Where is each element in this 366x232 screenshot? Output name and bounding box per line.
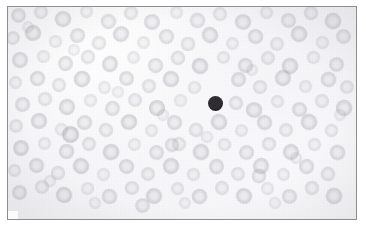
- erythrocyte: [95, 166, 110, 181]
- dark-stained-nucleated-cell: [208, 96, 223, 111]
- erythrocyte: [268, 35, 286, 53]
- erythrocyte: [234, 123, 248, 136]
- erythrocyte: [200, 130, 214, 144]
- erythrocyte: [26, 155, 47, 176]
- erythrocyte: [53, 9, 73, 29]
- erythrocyte: [100, 54, 121, 75]
- erythrocyte: [71, 68, 93, 91]
- erythrocyte: [103, 99, 121, 118]
- erythrocyte: [160, 155, 182, 177]
- erythrocyte: [187, 10, 207, 30]
- erythrocyte: [70, 155, 93, 178]
- erythrocyte: [26, 67, 47, 88]
- erythrocyte: [146, 56, 164, 74]
- erythrocyte: [144, 14, 160, 30]
- erythrocyte: [9, 182, 29, 202]
- erythrocyte: [296, 77, 314, 95]
- erythrocyte: [318, 164, 338, 184]
- erythrocyte: [259, 49, 278, 68]
- erythrocyte: [136, 35, 150, 49]
- erythrocyte: [96, 120, 116, 140]
- erythrocyte: [8, 74, 22, 89]
- erythrocyte: [225, 36, 240, 51]
- erythrocyte: [190, 141, 213, 164]
- erythrocyte: [78, 7, 94, 19]
- erythrocyte: [143, 122, 158, 138]
- screenshot-canvas: [0, 0, 366, 232]
- erythrocyte: [57, 55, 73, 72]
- erythrocyte: [170, 181, 185, 196]
- erythrocyte: [12, 94, 33, 115]
- erythrocyte: [8, 116, 26, 135]
- erythrocyte: [99, 12, 116, 29]
- erythrocyte: [306, 136, 323, 153]
- erythrocyte: [78, 47, 98, 67]
- erythrocyte: [189, 55, 211, 77]
- erythrocyte: [156, 26, 176, 46]
- erythrocyte: [35, 134, 53, 152]
- erythrocyte: [184, 165, 201, 182]
- erythrocyte: [141, 78, 157, 94]
- erythrocyte: [66, 24, 87, 45]
- erythrocyte: [251, 78, 269, 95]
- erythrocyte: [326, 141, 347, 162]
- erythrocyte: [233, 185, 255, 206]
- erythrocyte: [125, 90, 144, 109]
- erythrocyte: [79, 134, 98, 153]
- erythrocyte: [215, 49, 232, 66]
- erythrocyte: [236, 142, 256, 162]
- erythrocyte: [324, 186, 345, 207]
- erythrocyte: [303, 179, 320, 196]
- erythrocyte: [208, 111, 231, 134]
- erythrocyte: [207, 157, 225, 175]
- erythrocyte: [334, 27, 352, 45]
- erythrocyte: [234, 13, 252, 31]
- erythrocyte: [313, 91, 332, 110]
- erythrocyte: [199, 24, 222, 47]
- erythrocyte: [257, 7, 275, 21]
- erythrocyte: [279, 186, 300, 207]
- blood-smear-field: [8, 7, 356, 219]
- erythrocyte: [188, 185, 210, 207]
- erythrocyte: [215, 135, 233, 152]
- erythrocyte: [185, 78, 203, 95]
- erythrocyte: [48, 34, 62, 48]
- erythrocyte: [245, 26, 265, 46]
- erythrocyte: [302, 7, 320, 22]
- erythrocyte: [100, 141, 121, 162]
- erythrocyte: [305, 49, 321, 65]
- erythrocyte: [53, 184, 76, 207]
- erythrocyte: [125, 135, 143, 153]
- erythrocyte: [167, 7, 185, 21]
- erythrocyte: [147, 143, 165, 161]
- erythrocyte: [338, 78, 356, 96]
- erythrocyte: [168, 48, 188, 68]
- erythrocyte: [52, 78, 66, 93]
- erythrocyte: [228, 164, 247, 183]
- erythrocyte: [124, 181, 139, 196]
- corner-notch: [8, 211, 18, 219]
- erythrocyte: [43, 174, 56, 187]
- erythrocyte: [31, 7, 51, 22]
- erythrocyte: [81, 91, 99, 109]
- erythrocyte: [116, 156, 136, 176]
- erythrocyte: [57, 143, 74, 160]
- erythrocyte: [30, 112, 48, 130]
- erythrocyte: [274, 165, 291, 183]
- erythrocyte: [314, 34, 331, 51]
- erythrocyte: [125, 49, 142, 66]
- erythrocyte: [8, 29, 22, 47]
- erythrocyte: [10, 50, 30, 70]
- erythrocyte: [160, 68, 182, 90]
- erythrocyte: [8, 163, 21, 176]
- erythrocyte: [90, 34, 108, 51]
- erythrocyte: [34, 47, 52, 65]
- erythrocyte: [119, 112, 140, 132]
- erythrocyte: [111, 86, 124, 99]
- erythrocyte: [121, 7, 140, 23]
- erythrocyte: [139, 165, 158, 184]
- erythrocyte: [214, 180, 229, 196]
- erythrocyte: [36, 90, 54, 108]
- erythrocyte: [180, 36, 195, 51]
- erythrocyte: [268, 92, 286, 110]
